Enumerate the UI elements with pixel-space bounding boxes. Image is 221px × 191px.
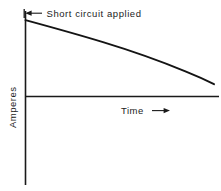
x-axis-label-group: Time — [121, 105, 170, 116]
curve-group — [26, 20, 215, 84]
short-circuit-current-figure: Short circuit applied Amperes Time — [0, 0, 221, 191]
short-circuit-current-curve — [26, 20, 215, 84]
short-circuit-annotation: Short circuit applied — [24, 8, 141, 19]
y-axis-label: Amperes — [7, 86, 18, 128]
x-axis-label: Time — [121, 105, 144, 116]
y-axis-label-group: Amperes — [7, 86, 18, 128]
annotation-label: Short circuit applied — [47, 8, 142, 19]
figure-canvas: Short circuit applied Amperes Time — [0, 0, 221, 191]
right-arrow-icon — [164, 108, 170, 113]
axes-group — [25, 11, 219, 185]
